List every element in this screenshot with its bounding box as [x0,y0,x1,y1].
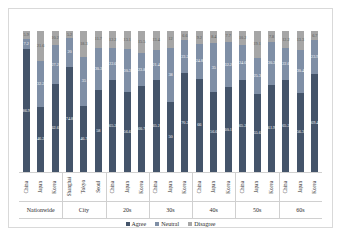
legend-item-neutral[interactable]: Neutral [155,221,179,227]
bar-segment-disagree: 13.4 [153,31,160,50]
bar-value-label: 38 [168,73,172,77]
bar-segment-agree: 65.2 [282,80,289,172]
bar-value-label: 21.4 [152,63,159,67]
group-separator [106,202,107,218]
stacked-bar: 13.330.456.3 [297,31,304,172]
bar-value-label: 6.7 [312,34,317,38]
category-label-cell: Japan [207,173,221,201]
bar-segment-neutral: 23.8 [138,53,145,87]
category-label-cell: Korea [221,173,235,201]
stacked-bar: 18.33546.7 [80,31,87,172]
bar-segment-agree: 50 [167,102,174,173]
category-label-cell: Japan [250,173,264,201]
bar-segment-disagree: 10.2 [239,31,246,45]
bar-value-label: 30.4 [297,69,304,73]
bar-segment-neutral: 38 [167,48,174,102]
stacked-bar: 11.730.358 [95,31,102,172]
bar-segment-agree: 56.6 [210,92,217,172]
category-label-cell: China [279,173,293,201]
category-label: Korea [226,181,231,194]
group-separator [149,173,150,201]
bar-segment-neutral: 24.8 [196,44,203,79]
bar-segment-agree: 46.7 [80,106,87,172]
bar-value-label: 15.5 [138,40,145,44]
bar-value-label: 65.2 [282,124,289,128]
bar-segment-agree: 58 [95,90,102,172]
legend-label: Agree [132,221,147,227]
bar-value-label: 6.6 [182,34,187,38]
bar-segment-agree: 56.6 [124,92,131,172]
bar-value-label: 69.4 [311,121,318,125]
bar-segment-agree: 66 [196,79,203,172]
stacked-bar: 13.130.356.6 [124,31,131,172]
bar-segment-disagree: 13.1 [124,31,131,49]
legend-item-agree[interactable]: Agree [126,221,147,227]
bar-segment-disagree: 21.6 [37,31,44,61]
stacked-bar: 12.222.665.2 [282,31,289,172]
category-label-cell: China [149,173,163,201]
bar-value-label: 7.7 [226,34,231,38]
bar-segment-disagree: 10.2 [52,31,59,45]
bar-value-label: 32.2 [225,62,232,66]
bar-segment-agree: 69.4 [311,74,318,172]
category-label: Korea [182,181,187,194]
bar-segment-neutral: 25.3 [254,58,261,94]
stacked-bar: 19.125.355.6 [254,31,261,172]
bar-value-label: 25.3 [253,74,260,78]
bar-value-label: 13.1 [124,38,131,42]
bar-value-label: 30.3 [268,61,275,65]
bar-value-label: 61.9 [268,126,275,130]
stacked-bar: 7.830.361.9 [268,31,275,172]
bar-segment-disagree: 9.2 [196,31,203,44]
bar-value-label: 12 [168,37,172,41]
bar-segment-neutral: 21.4 [153,50,160,80]
bar-segment-agree: 56.3 [297,93,304,172]
bar-value-label: 5.2 [67,33,72,37]
category-label: Japan [254,181,259,193]
bar-value-label: 24.6 [239,61,246,65]
category-label-cell: Korea [178,173,192,201]
bar-segment-agree: 55.6 [254,94,261,172]
bar-value-label: 60.1 [225,128,232,132]
category-label: Korea [139,181,144,194]
bar-segment-agree: 62.6 [52,84,59,172]
stacked-bar: 21.632.246.2 [37,31,44,172]
bar-value-label: 10.2 [239,36,246,40]
category-label: China [283,181,288,193]
bar-value-label: 55.6 [253,131,260,135]
bar-segment-neutral: 30.3 [124,49,131,92]
bar-segment-disagree: 12.2 [282,31,289,48]
stacked-bar: 12.222.665.2 [109,31,116,172]
group-separator [192,173,193,201]
bar-value-label: 60.7 [138,127,145,131]
bar-value-label: 24.8 [196,59,203,63]
bar-segment-neutral: 35 [210,43,217,92]
bar-segment-neutral: 30.3 [268,42,275,85]
group-separator [279,173,280,201]
stacked-bar: 8.43556.6 [210,31,217,172]
bar-value-label: 12.2 [282,38,289,42]
bar-segment-disagree: 5.2 [66,31,73,38]
bar-segment-disagree: 8.4 [210,31,217,43]
legend-item-disagree[interactable]: Disagree [188,221,215,227]
bar-segment-neutral: 30.3 [95,48,102,91]
category-label: Japan [298,181,303,193]
bar-value-label: 66 [197,123,201,127]
group-separator [62,173,63,201]
category-label: Japan [168,181,173,193]
stacked-bar: 7.732.260.1 [225,31,232,172]
bar-value-label: 5.9 [24,33,29,37]
category-axis-band: ChinaJapanKoreaShanghaiTokyoSeoulChinaJa… [19,172,322,202]
category-label-cell: Japan [120,173,134,201]
group-separator [279,202,280,218]
bar-value-label: 22.6 [282,62,289,66]
group-separator [106,173,107,201]
stacked-bar: 15.523.860.7 [138,31,145,172]
stacked-bar: 5.97.286.9 [23,31,30,172]
legend-label: Neutral [161,221,179,227]
bar-value-label: 50 [168,135,172,139]
stacked-bar: 10.224.665.2 [239,31,246,172]
bar-segment-agree: 65.2 [109,80,116,172]
bar-value-label: 21.6 [37,44,44,48]
bar-value-label: 10.2 [51,36,58,40]
